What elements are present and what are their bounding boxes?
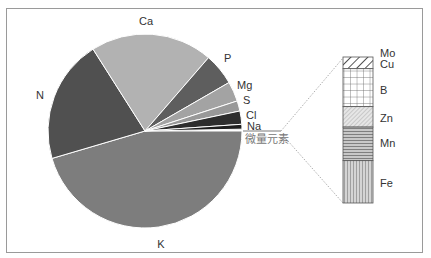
bar-segment-fe <box>343 161 373 203</box>
bar-segment-mo-cu <box>343 57 373 69</box>
connector-top <box>281 58 343 131</box>
stacked-bar <box>343 57 373 203</box>
label-na: Na <box>247 120 262 132</box>
bar-segment-zn <box>343 107 373 127</box>
label-mg: Mg <box>237 79 252 91</box>
label-trace-elements: 微量元素 <box>245 132 289 146</box>
label-mn: Mn <box>380 137 395 149</box>
label-n: N <box>36 89 44 101</box>
label-cu: Cu <box>380 58 394 70</box>
connector-bottom <box>288 141 343 203</box>
label-p: P <box>224 52 231 64</box>
label-b: B <box>380 84 387 96</box>
label-fe: Fe <box>380 177 393 189</box>
bar-segment-mn <box>343 127 373 161</box>
label-ca: Ca <box>139 15 154 27</box>
label-s: S <box>243 94 250 106</box>
chart-canvas: Ca P Mg S Cl Na N K 微量元素 Mo Cu B Zn Mn F… <box>0 0 431 258</box>
label-zn: Zn <box>380 112 393 124</box>
label-k: K <box>157 238 165 250</box>
pie-chart <box>48 34 242 228</box>
bar-segment-b <box>343 69 373 107</box>
